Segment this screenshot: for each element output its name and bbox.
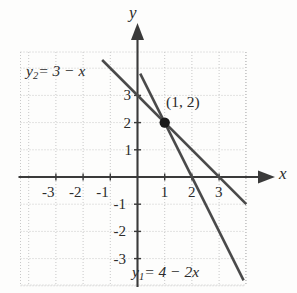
equation-label-y1: y1= 4 − 2x	[132, 264, 199, 282]
coordinate-graph-figure: y x y2= 3 − x y1= 4 − 2x (1, 2) -3-2-112…	[0, 0, 297, 293]
intersection-dot	[160, 117, 170, 127]
graph-canvas	[0, 0, 297, 293]
eq2-rhs: = 3 − x	[38, 62, 85, 79]
y-tick-label: -3	[114, 252, 127, 267]
y-tick-label: -2	[114, 224, 127, 239]
x-axis-arrowhead	[258, 171, 275, 184]
x-tick-label: 3	[215, 185, 223, 200]
y-tick-label: 1	[125, 143, 133, 158]
x-tick-label: -1	[96, 185, 109, 200]
line-series-2	[102, 60, 246, 204]
y-tick-label: 2	[124, 116, 132, 131]
y-tick-label: 3	[124, 88, 132, 103]
eq1-var: y	[132, 263, 139, 280]
y-tick-label: -1	[114, 197, 127, 212]
intersection-point-marker	[160, 117, 170, 127]
x-tick-label: -3	[42, 185, 55, 200]
x-tick-label: -2	[69, 185, 82, 200]
x-axis-label: x	[279, 165, 287, 182]
eq1-rhs: = 4 − 2x	[144, 263, 199, 280]
y-axis-label: y	[129, 4, 137, 21]
y-axis-arrowhead	[131, 23, 144, 40]
intersection-point-label: (1, 2)	[166, 94, 200, 110]
x-tick-label: 2	[188, 185, 196, 200]
eq2-var: y	[26, 62, 33, 79]
equation-label-y2: y2= 3 − x	[26, 63, 85, 81]
x-tick-label: 1	[161, 185, 169, 200]
